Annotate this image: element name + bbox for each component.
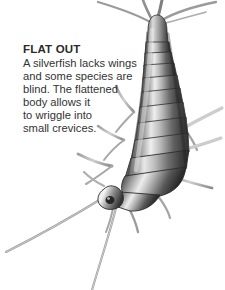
leg-left-mid-tip bbox=[104, 140, 124, 160]
leg-left-hind-tip bbox=[86, 166, 112, 184]
eye-highlight bbox=[107, 197, 110, 199]
caption-line: A silverfish lacks wings bbox=[23, 57, 141, 70]
caption-line: body allows it bbox=[23, 96, 141, 109]
cercus-right-inner bbox=[163, 12, 206, 24]
caption-line: and some species are bbox=[23, 70, 141, 83]
caption-block: FLAT OUT A silverfish lacks wings and so… bbox=[23, 43, 141, 134]
cercus-left bbox=[98, 2, 150, 22]
leg-right-front bbox=[184, 108, 222, 128]
cercus-left-inner bbox=[143, 0, 152, 20]
antennae-group bbox=[6, 196, 118, 290]
leg-right-hind-tip bbox=[158, 196, 170, 218]
caption-line: small crevices. bbox=[23, 122, 141, 135]
caption-line: to wriggle into bbox=[23, 109, 141, 122]
antenna-left bbox=[6, 196, 106, 252]
caption-heading: FLAT OUT bbox=[23, 43, 141, 56]
eye bbox=[106, 196, 115, 204]
illustration-page: FLAT OUT A silverfish lacks wings and so… bbox=[0, 0, 225, 290]
cercus-middle bbox=[158, 0, 162, 17]
caption-line: blind. The flattened bbox=[23, 83, 141, 96]
